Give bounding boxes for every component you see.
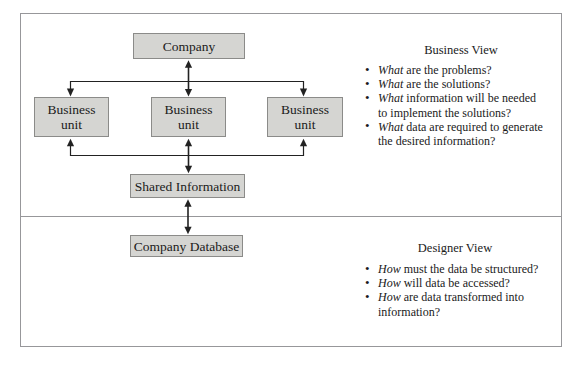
bullet-item: How must the data be structured?	[365, 262, 569, 276]
bullet-item: What are the solutions?	[365, 77, 569, 91]
bullet-lead: What	[378, 91, 403, 105]
node-shared-information-label: Shared Information	[135, 179, 240, 194]
bullet-lead: How	[378, 262, 401, 276]
bullet-text: data are required to generate	[403, 120, 543, 134]
bullet-text: are the problems?	[403, 63, 491, 77]
bullet-text-line2: the desired information?	[378, 134, 495, 148]
bullet-text: must the data be structured?	[401, 262, 539, 276]
node-business-unit-3-label: Businessunit	[281, 102, 329, 132]
business-view-bullets: What are the problems? What are the solu…	[365, 63, 569, 148]
bullet-lead: How	[378, 290, 401, 304]
bullet-text-line2: to implement the solutions?	[378, 106, 511, 120]
bullet-item: How will data be accessed?	[365, 276, 569, 290]
business-view-title: Business View	[368, 43, 554, 58]
node-shared-information: Shared Information	[130, 174, 245, 198]
node-business-unit-2-label: Businessunit	[164, 102, 212, 132]
node-company-database: Company Database	[130, 235, 243, 257]
bullet-text: information will be needed	[403, 91, 536, 105]
node-company: Company	[133, 33, 245, 59]
bullet-item: What are the problems?	[365, 63, 569, 77]
node-business-unit-2: Businessunit	[151, 97, 226, 137]
bullet-item: What data are required to generatethe de…	[365, 120, 569, 148]
bullet-text: are the solutions?	[403, 77, 490, 91]
designer-view-bullets: How must the data be structured? How wil…	[365, 262, 569, 319]
node-business-unit-1-label: Businessunit	[47, 102, 95, 132]
designer-view-title: Designer View	[362, 241, 548, 256]
figure-canvas: Company Businessunit Businessunit Busine…	[0, 0, 579, 371]
bullet-lead: What	[378, 63, 403, 77]
bullet-text-line2: information?	[378, 305, 440, 319]
node-company-label: Company	[163, 39, 216, 54]
bullet-lead: What	[378, 120, 403, 134]
bullet-text: will data be accessed?	[401, 276, 510, 290]
view-divider-line	[21, 216, 561, 217]
bullet-lead: How	[378, 276, 401, 290]
bullet-item: How are data transformed intoinformation…	[365, 290, 569, 318]
bullet-text: are data transformed into	[401, 290, 524, 304]
bullet-lead: What	[378, 77, 403, 91]
node-business-unit-3: Businessunit	[267, 97, 343, 137]
node-company-database-label: Company Database	[134, 239, 239, 254]
bullet-item: What information will be neededto implem…	[365, 91, 569, 119]
node-business-unit-1: Businessunit	[34, 97, 109, 137]
